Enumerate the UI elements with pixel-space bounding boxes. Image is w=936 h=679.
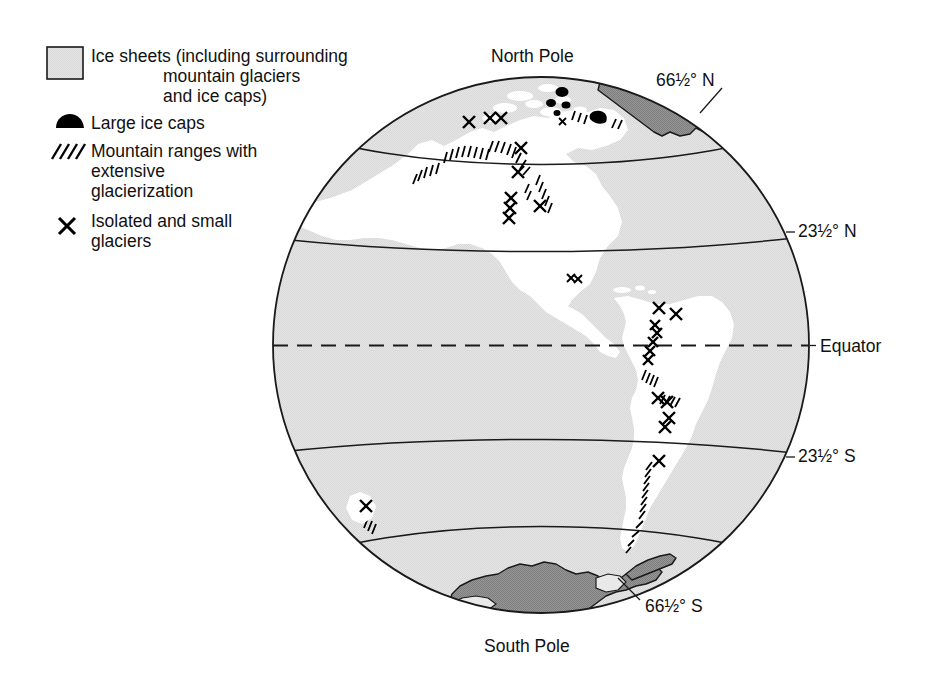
glacier-distribution-map: Ice sheets (including surrounding mounta… bbox=[0, 0, 936, 679]
label-arctic-circle: 66½° N bbox=[656, 70, 715, 90]
legend-isolated-glaciers-line-1: Isolated and small bbox=[91, 211, 232, 231]
ice-cap-blob bbox=[554, 110, 561, 116]
ice-cap-blob bbox=[556, 87, 569, 97]
legend-ice-sheets-line-1: Ice sheets (including surrounding bbox=[91, 46, 348, 66]
legend-large-ice-caps-label: Large ice caps bbox=[91, 113, 205, 133]
ice-sheet-swatch-icon bbox=[47, 47, 83, 79]
legend-mountain-ranges-line-2: extensive bbox=[91, 161, 165, 181]
label-north-pole: North Pole bbox=[491, 46, 574, 66]
legend-ice-sheets-line-3: and ice caps) bbox=[163, 86, 267, 106]
legend-mountain-ranges-line-3: glacierization bbox=[91, 181, 193, 201]
label-antarctic-circle: 66½° S bbox=[645, 596, 703, 616]
ice-cap-blob bbox=[562, 102, 571, 109]
label-tropic-of-cancer: 23½° N bbox=[798, 221, 857, 241]
ice-cap-blob bbox=[546, 99, 556, 107]
label-equator: Equator bbox=[820, 336, 881, 356]
label-tropic-of-capricorn: 23½° S bbox=[798, 446, 856, 466]
label-south-pole: South Pole bbox=[484, 636, 570, 656]
legend-isolated-glaciers-line-2: glaciers bbox=[91, 231, 152, 251]
legend-ice-sheets-line-2: mountain glaciers bbox=[163, 66, 300, 86]
land-aleutians bbox=[386, 166, 422, 174]
legend-mountain-ranges-line-1: Mountain ranges with bbox=[91, 141, 257, 161]
